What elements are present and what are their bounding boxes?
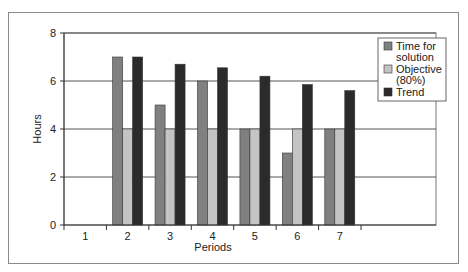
bar-chart: 02468 1234567 Periods Hours Time forsolu… (0, 0, 468, 272)
y-tick-label: 0 (50, 219, 56, 231)
x-tick-label: 6 (294, 230, 300, 242)
x-axis-ticks: 1234567 (64, 225, 361, 242)
bar (208, 129, 218, 225)
y-axis-ticks: 02468 (50, 27, 64, 231)
x-axis-title: Periods (194, 241, 232, 253)
x-tick-label: 1 (82, 230, 88, 242)
x-tick-label: 3 (167, 230, 173, 242)
bar (175, 64, 185, 225)
bar (282, 153, 292, 225)
bar (133, 57, 143, 225)
legend-label: solution (396, 51, 434, 63)
bar (335, 129, 345, 225)
y-axis-title: Hours (31, 114, 43, 144)
bar (260, 76, 270, 225)
y-tick-label: 2 (50, 171, 56, 183)
legend-swatch-icon (384, 65, 392, 73)
x-tick-label: 2 (125, 230, 131, 242)
legend-item: Trend (384, 86, 424, 98)
y-tick-label: 6 (50, 75, 56, 87)
y-tick-label: 8 (50, 27, 56, 39)
bar (113, 57, 123, 225)
bar (240, 129, 250, 225)
bar (198, 81, 208, 225)
x-tick-label: 7 (337, 230, 343, 242)
bar (302, 85, 312, 225)
y-tick-label: 4 (50, 123, 56, 135)
legend: Time forsolutionObjective(80%)Trend (378, 38, 446, 101)
bar (218, 68, 228, 225)
bar (123, 129, 133, 225)
bar (155, 105, 165, 225)
bar (250, 129, 260, 225)
legend-swatch-icon (384, 42, 392, 50)
bar (292, 129, 302, 225)
bar (345, 91, 355, 225)
bar (325, 129, 335, 225)
bar (165, 129, 175, 225)
legend-label: (80%) (396, 74, 425, 86)
legend-swatch-icon (384, 88, 392, 96)
legend-label: Trend (396, 86, 424, 98)
x-tick-label: 5 (252, 230, 258, 242)
